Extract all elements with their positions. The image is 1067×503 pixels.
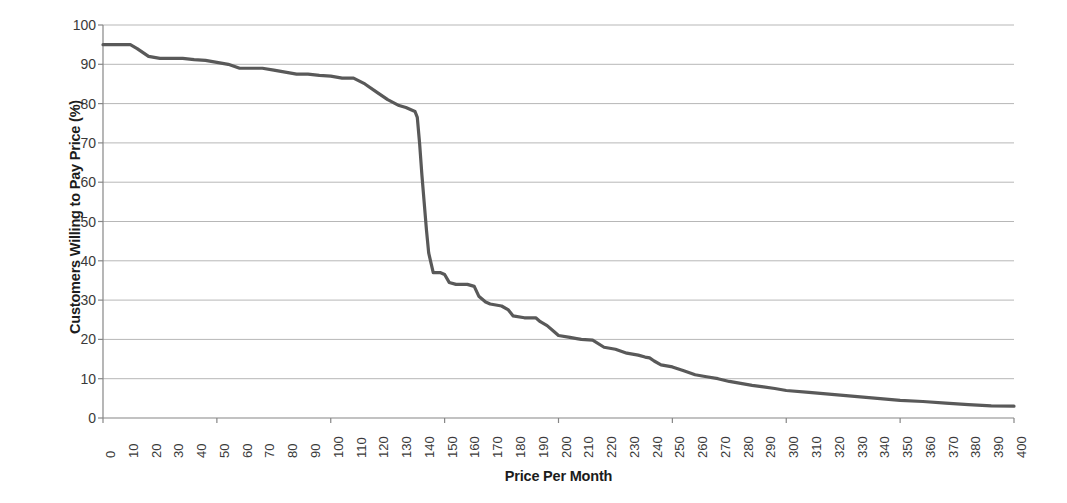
x-tick-label: 290 xyxy=(763,398,778,458)
x-tick-label: 390 xyxy=(991,398,1006,458)
x-tick-label: 380 xyxy=(968,398,983,458)
x-tick-label: 360 xyxy=(923,398,938,458)
x-tick-label: 0 xyxy=(103,398,118,458)
x-tick-label: 80 xyxy=(285,398,300,458)
x-tick-label: 320 xyxy=(832,398,847,458)
x-tick-label: 400 xyxy=(1014,398,1029,458)
x-tick-label: 160 xyxy=(467,398,482,458)
x-tick-label: 140 xyxy=(422,398,437,458)
x-tick-label: 200 xyxy=(559,398,574,458)
x-tick-label: 210 xyxy=(581,398,596,458)
x-tick-label: 300 xyxy=(786,398,801,458)
x-tick-label: 270 xyxy=(718,398,733,458)
x-tick-label: 90 xyxy=(308,398,323,458)
x-tick-label: 120 xyxy=(376,398,391,458)
x-tick-label: 340 xyxy=(877,398,892,458)
x-tick-label: 240 xyxy=(650,398,665,458)
x-tick-label: 250 xyxy=(672,398,687,458)
chart-container: Customers Willing to Pay Price (%) 01020… xyxy=(0,0,1067,503)
x-tick-label: 180 xyxy=(513,398,528,458)
x-tick-label: 150 xyxy=(445,398,460,458)
x-tick-label: 220 xyxy=(604,398,619,458)
x-axis-tick-labels: 0102030405060708090100110120130140150160… xyxy=(0,0,1067,503)
x-tick-label: 10 xyxy=(126,398,141,458)
x-tick-label: 190 xyxy=(536,398,551,458)
x-tick-label: 100 xyxy=(331,398,346,458)
x-tick-label: 330 xyxy=(855,398,870,458)
x-tick-label: 20 xyxy=(149,398,164,458)
x-tick-label: 230 xyxy=(627,398,642,458)
x-tick-label: 260 xyxy=(695,398,710,458)
x-tick-label: 60 xyxy=(240,398,255,458)
x-tick-label: 50 xyxy=(217,398,232,458)
x-tick-label: 350 xyxy=(900,398,915,458)
x-tick-label: 170 xyxy=(490,398,505,458)
x-tick-label: 40 xyxy=(194,398,209,458)
x-tick-label: 130 xyxy=(399,398,414,458)
x-tick-label: 370 xyxy=(946,398,961,458)
x-tick-label: 110 xyxy=(354,398,369,458)
x-tick-label: 30 xyxy=(171,398,186,458)
x-tick-label: 280 xyxy=(741,398,756,458)
x-tick-label: 70 xyxy=(262,398,277,458)
x-axis-title: Price Per Month xyxy=(103,468,1014,484)
x-tick-label: 310 xyxy=(809,398,824,458)
